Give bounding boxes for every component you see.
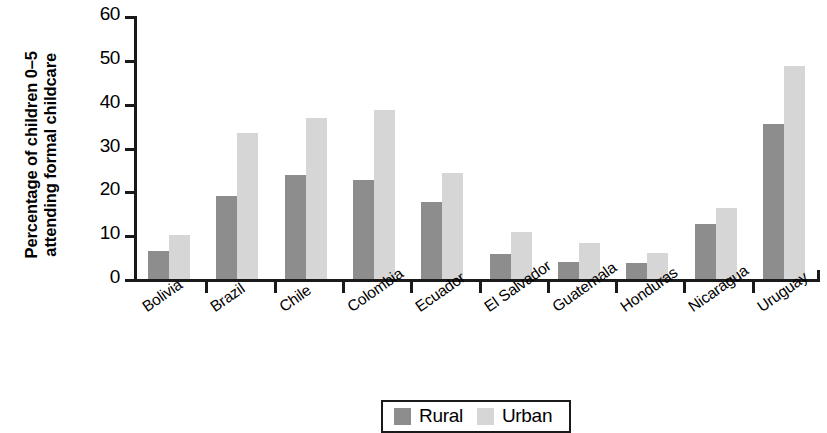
bar-chart-figure: Percentage of children 0–5 attending for… (0, 0, 827, 433)
bar-group (353, 16, 395, 279)
x-axis-tick-mark (342, 282, 345, 293)
bar-group (148, 16, 190, 279)
x-axis-category-label: Chile (276, 281, 314, 315)
bar-rural (353, 180, 374, 279)
chart-legend: Rural Urban (381, 400, 571, 433)
y-axis-tick-label: 50 (78, 47, 120, 69)
bar-urban (374, 110, 395, 279)
bar-urban (442, 173, 463, 279)
bar-rural (216, 196, 237, 279)
legend-swatch-urban (477, 408, 494, 425)
bar-group (695, 16, 737, 279)
bar-rural (558, 262, 579, 279)
bar-rural (763, 124, 784, 279)
y-axis-line (134, 16, 137, 282)
bar-group (558, 16, 600, 279)
bar-urban (169, 235, 190, 279)
x-axis-tick-mark (615, 282, 618, 293)
y-axis-tick-label: 60 (78, 3, 120, 25)
y-axis-tick-label: 30 (78, 135, 120, 157)
x-axis-tick-mark (205, 282, 208, 293)
x-axis-tick-mark (547, 282, 550, 293)
x-axis-tick-mark (479, 282, 482, 293)
bar-group (626, 16, 668, 279)
bar-urban (784, 66, 805, 279)
y-axis-label: Percentage of children 0–5 attending for… (22, 10, 60, 300)
bar-group (421, 16, 463, 279)
y-axis-tick-label: 10 (78, 222, 120, 244)
bar-group (285, 16, 327, 279)
x-axis-tick-mark (752, 282, 755, 293)
bar-rural (148, 251, 169, 279)
legend-label-urban: Urban (502, 405, 552, 427)
bar-group (763, 16, 805, 279)
legend-label-rural: Rural (419, 405, 463, 427)
x-axis-tick-mark (274, 282, 277, 293)
bar-rural (421, 202, 442, 279)
bar-rural (490, 254, 511, 279)
x-axis-tick-mark (683, 282, 686, 293)
x-axis-tick-mark (410, 282, 413, 293)
bar-rural (285, 175, 306, 279)
bar-urban (306, 118, 327, 279)
y-axis-tick-label: 0 (78, 266, 120, 288)
bar-group (216, 16, 258, 279)
bar-urban (237, 133, 258, 279)
x-axis-category-label: Brazil (207, 279, 248, 315)
y-axis-tick-label: 40 (78, 91, 120, 113)
x-axis-right-cap (817, 270, 820, 282)
bar-rural (695, 224, 716, 279)
y-axis-tick-label: 20 (78, 178, 120, 200)
bar-group (490, 16, 532, 279)
legend-swatch-rural (394, 408, 411, 425)
bar-rural (626, 263, 647, 279)
